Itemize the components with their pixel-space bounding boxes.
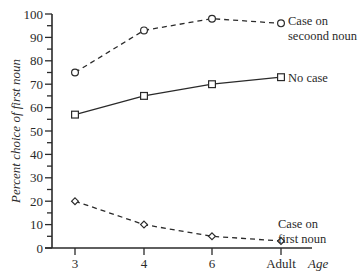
x-tick-label: 3 xyxy=(72,256,79,271)
y-tick-label: 90 xyxy=(30,30,43,45)
series-line xyxy=(75,19,281,73)
x-tick-label: 6 xyxy=(209,256,216,271)
series-line xyxy=(75,77,281,114)
y-tick-label: 10 xyxy=(30,217,43,232)
series-line xyxy=(75,201,281,241)
square-marker xyxy=(278,74,285,81)
circle-marker xyxy=(141,27,148,34)
series-square xyxy=(72,74,285,118)
diamond-marker xyxy=(209,233,216,240)
circle-marker xyxy=(72,69,79,76)
legend-layer: Case onsecoond nounNo caseCase onfirst n… xyxy=(278,14,358,246)
series-circle xyxy=(72,15,285,76)
series-layer xyxy=(72,15,285,244)
y-tick-label: 60 xyxy=(30,100,43,115)
x-tick-label: Adult xyxy=(266,256,296,271)
legend-label: No case xyxy=(288,71,328,85)
square-marker xyxy=(141,93,148,100)
y-tick-label: 50 xyxy=(30,124,43,139)
legend-label: first noun xyxy=(278,232,327,246)
line-chart: 0102030405060708090100 346Adult Case ons… xyxy=(0,0,359,277)
y-axis-title: Percent choice of first noun xyxy=(8,59,23,204)
circle-marker xyxy=(209,15,216,22)
y-tick-label: 30 xyxy=(30,170,43,185)
square-marker xyxy=(72,111,79,118)
y-tick-label: 70 xyxy=(30,77,43,92)
x-tick-label: 4 xyxy=(141,256,148,271)
series-diamond xyxy=(72,198,285,245)
y-tick-label: 20 xyxy=(30,194,43,209)
square-marker xyxy=(209,81,216,88)
x-axis-title: Age xyxy=(307,256,328,271)
diamond-marker xyxy=(72,198,79,205)
diamond-marker xyxy=(141,221,148,228)
legend-label: Case on xyxy=(278,217,319,231)
y-axis: 0102030405060708090100 xyxy=(24,7,53,256)
y-tick-label: 100 xyxy=(24,7,44,22)
legend-label: secoond noun xyxy=(288,29,358,43)
circle-marker xyxy=(278,20,285,27)
y-tick-label: 40 xyxy=(30,147,43,162)
y-tick-label: 0 xyxy=(37,241,44,256)
legend-label: Case on xyxy=(288,14,329,28)
x-axis: 346Adult xyxy=(45,248,312,271)
y-tick-label: 80 xyxy=(30,53,43,68)
